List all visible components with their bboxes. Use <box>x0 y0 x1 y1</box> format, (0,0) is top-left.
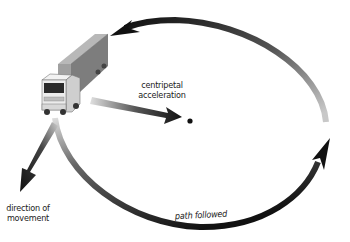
centripetal-label-line1: centripetal <box>122 80 202 90</box>
center-point <box>187 118 192 123</box>
path-arc-top <box>110 20 326 122</box>
truck-windshield <box>44 83 64 93</box>
direction-arrow <box>20 122 58 192</box>
centripetal-acceleration-label: centripetal acceleration <box>122 80 202 100</box>
direction-label-line2: movement <box>0 213 56 223</box>
centripetal-arrow <box>90 97 182 124</box>
truck-cab <box>42 74 80 115</box>
direction-of-movement-label: direction of movement <box>0 203 56 223</box>
centripetal-label-line2: acceleration <box>122 90 202 100</box>
direction-label-line1: direction of <box>0 203 56 213</box>
